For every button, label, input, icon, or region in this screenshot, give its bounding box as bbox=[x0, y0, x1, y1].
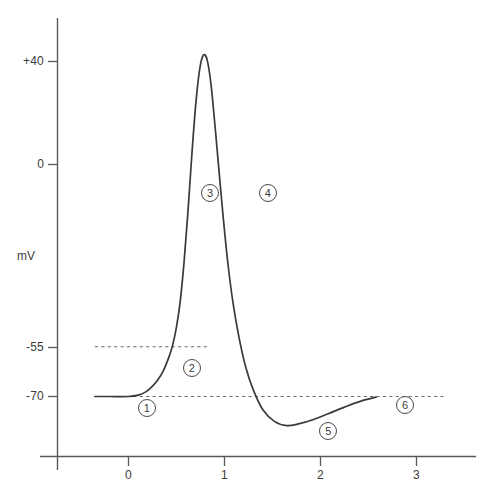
phase-marker-3: 3 bbox=[201, 184, 219, 202]
membrane-potential-curve-group bbox=[95, 55, 376, 426]
y-tick-label-plus40: +40 bbox=[8, 54, 44, 68]
chart-canvas bbox=[0, 0, 490, 493]
action-potential-chart: +40 0 -55 -70 mV 0 1 2 3 123456 bbox=[0, 0, 490, 493]
phase-marker-6: 6 bbox=[396, 396, 414, 414]
y-tick-label-minus70: -70 bbox=[8, 389, 44, 403]
x-tick-label-0: 0 bbox=[110, 468, 147, 482]
x-tick-label-2: 2 bbox=[302, 468, 339, 482]
x-tick-label-1: 1 bbox=[206, 468, 243, 482]
y-axis-title: mV bbox=[17, 249, 35, 263]
x-tick-label-3: 3 bbox=[398, 468, 435, 482]
series-line-membrane-potential bbox=[95, 55, 376, 426]
phase-marker-4: 4 bbox=[259, 184, 277, 202]
y-tick-label-minus55: -55 bbox=[8, 340, 44, 354]
reference-lines-group bbox=[95, 347, 444, 397]
phase-marker-1: 1 bbox=[138, 399, 156, 417]
y-tick-label-0: 0 bbox=[8, 157, 44, 171]
